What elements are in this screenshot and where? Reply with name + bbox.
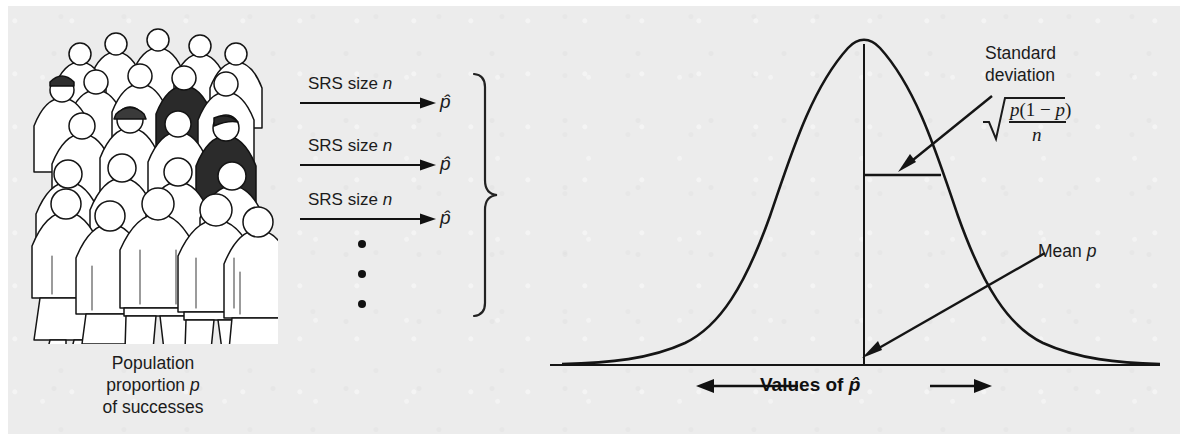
- srs-row-3-output-phat: p̂: [440, 207, 451, 229]
- srs-arrow-2-icon: [300, 158, 436, 172]
- standard-deviation-label: Standard deviation: [985, 42, 1056, 86]
- standard-deviation-label-line-2: deviation: [985, 64, 1056, 86]
- srs-row-3-label: SRS size n: [308, 190, 392, 210]
- sampling-distribution-figure: Population proportion p of successes SRS…: [0, 0, 1188, 440]
- normal-curve-path: [562, 40, 1160, 364]
- standard-deviation-label-line-1: Standard: [985, 42, 1056, 64]
- mean-pointer-arrow: [862, 253, 1045, 358]
- population-caption: Population proportion p of successes: [28, 352, 278, 418]
- srs-row-1-output-phat: p̂: [440, 91, 451, 113]
- srs-row-2: SRS size n p̂: [300, 136, 480, 182]
- srs-row-2-label-text: SRS size: [308, 136, 383, 155]
- population-caption-line-2: proportion p: [28, 374, 278, 396]
- srs-row-1: SRS size n p̂: [300, 74, 480, 120]
- population-caption-line-1: Population: [28, 352, 278, 374]
- srs-row-3-label-text: SRS size: [308, 190, 383, 209]
- srs-row-3: SRS size n p̂: [300, 190, 480, 236]
- srs-row-3-sample-size-symbol: n: [383, 190, 392, 209]
- axis-caption: Values of p̂: [760, 374, 860, 396]
- crowd-illustration: [28, 14, 278, 344]
- svg-text:n: n: [1032, 124, 1042, 144]
- srs-row-2-sample-size-symbol: n: [383, 136, 392, 155]
- srs-row-1-sample-size-symbol: n: [383, 74, 392, 93]
- ellipsis-dot-1: [358, 240, 366, 248]
- srs-row-1-label-text: SRS size: [308, 74, 383, 93]
- population-caption-line-2-text: proportion: [106, 375, 190, 395]
- srs-row-2-label: SRS size n: [308, 136, 392, 156]
- srs-arrow-3-icon: [300, 212, 436, 226]
- mean-label: Mean p: [1038, 240, 1096, 262]
- ellipsis-dot-2: [358, 270, 366, 278]
- right-curly-brace-icon: [470, 72, 506, 318]
- srs-row-2-output-phat: p̂: [440, 153, 451, 175]
- standard-deviation-pointer-arrow: [898, 96, 992, 172]
- axis-caption-right-arrow: [930, 379, 992, 393]
- mean-symbol: p: [1087, 241, 1097, 261]
- population-caption-line-3: of successes: [28, 396, 278, 418]
- standard-deviation-formula: p(1 − p) n: [980, 92, 1130, 144]
- srs-arrow-1-icon: [300, 96, 436, 110]
- mean-label-text: Mean: [1038, 241, 1087, 261]
- svg-text:p(1 − p): p(1 − p): [1008, 99, 1071, 121]
- ellipsis-dot-3: [358, 300, 366, 308]
- srs-row-1-label: SRS size n: [308, 74, 392, 94]
- vertical-ellipsis-dots-icon: [358, 240, 366, 330]
- sampling-distribution-curve: [540, 18, 1170, 418]
- axis-caption-text: Values of: [760, 374, 849, 395]
- population-proportion-symbol: p: [190, 375, 200, 395]
- axis-caption-phat-symbol: p̂: [849, 374, 861, 395]
